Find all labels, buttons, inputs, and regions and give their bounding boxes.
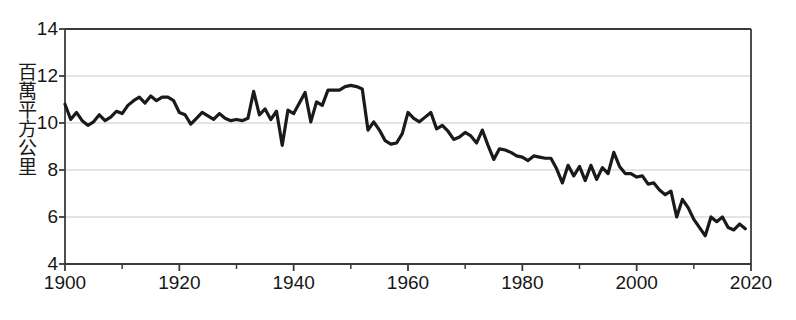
axis-frame bbox=[65, 29, 751, 264]
axis-ticks bbox=[59, 29, 751, 271]
plot-area bbox=[0, 0, 796, 320]
data-series-line bbox=[65, 85, 745, 235]
chart-figure: 百萬平方公里 468101214 19001920194019601980200… bbox=[0, 0, 796, 320]
